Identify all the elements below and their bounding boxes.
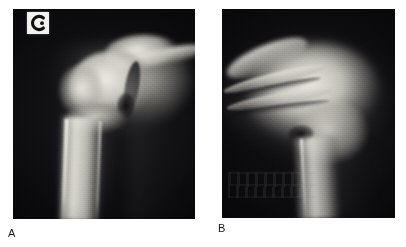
radiograph-panel-b[interactable] xyxy=(222,9,395,218)
radiograph-figure: A B xyxy=(0,0,406,247)
film-grain-a xyxy=(13,9,195,219)
reversed-c-icon xyxy=(27,12,49,34)
panel-caption-b: B xyxy=(218,223,226,234)
radiograph-panel-a[interactable] xyxy=(13,9,195,219)
panel-caption-a: A xyxy=(8,228,16,239)
film-grain-b xyxy=(222,9,395,218)
